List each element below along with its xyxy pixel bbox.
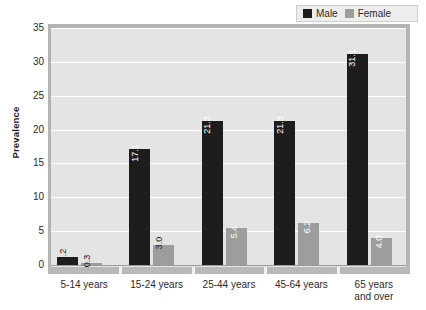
y-axis-tick-20: 20 <box>16 125 44 135</box>
bar-value-label: 0.3 <box>83 255 92 268</box>
bar-groups: 1.20.317.13.021.35.421.36.231.14.0 <box>51 28 406 267</box>
y-axis-tick-0: 0 <box>16 260 44 270</box>
x-axis-tick-label: 25-44 years <box>193 279 265 291</box>
bar-value-label: 21.3 <box>204 116 213 134</box>
legend-label-male: Male <box>316 9 338 19</box>
legend-label-female: Female <box>358 9 391 19</box>
bar-value-label: 31.1 <box>348 50 357 68</box>
bar-value-label: 6.2 <box>302 221 311 234</box>
x-axis-tick-line: 15-24 years <box>120 279 192 291</box>
y-axis-tick-35: 35 <box>16 23 44 33</box>
x-axis-group-separator <box>337 267 340 274</box>
y-axis-tick-10: 10 <box>16 192 44 202</box>
bar-value-label: 4.0 <box>375 236 384 249</box>
bar-value-label: 1.2 <box>59 249 68 262</box>
bar-female[interactable]: 6.2 <box>298 223 319 265</box>
bar-group: 31.14.0 <box>341 28 413 267</box>
x-axis-tick-line: and over <box>338 291 410 303</box>
bar-group: 21.35.4 <box>196 28 268 267</box>
y-axis-tick-labels: 05101520253035 <box>16 24 44 267</box>
bar-female[interactable]: 5.4 <box>226 228 247 265</box>
x-axis-tick-labels: 5-14 years15-24 years25-44 years45-64 ye… <box>48 279 410 309</box>
legend-entry-female: Female <box>345 9 391 19</box>
plot-area: 1.20.317.13.021.35.421.36.231.14.0 <box>48 24 410 267</box>
legend-entry-male: Male <box>303 9 338 19</box>
x-axis-strip <box>48 267 410 274</box>
bar-male[interactable]: 31.1 <box>347 54 368 265</box>
bar-value-label: 3.0 <box>155 236 164 249</box>
bar-value-label: 17.1 <box>131 144 140 162</box>
bar-group: 21.36.2 <box>268 28 340 267</box>
bar-value-label: 21.3 <box>276 116 285 134</box>
y-axis-tick-25: 25 <box>16 91 44 101</box>
x-axis-tick-label: 65 yearsand over <box>338 279 410 303</box>
x-axis-tick-label: 5-14 years <box>48 279 120 291</box>
bar-group: 1.20.3 <box>51 28 123 267</box>
bar-female[interactable]: 0.3 <box>81 263 102 265</box>
x-axis-tick-label: 45-64 years <box>265 279 337 291</box>
x-axis-tick-line: 45-64 years <box>265 279 337 291</box>
x-axis-tick-line: 25-44 years <box>193 279 265 291</box>
bar-male[interactable]: 1.2 <box>57 257 78 265</box>
bar-female[interactable]: 4.0 <box>371 238 392 265</box>
x-axis-tick-label: 15-24 years <box>120 279 192 291</box>
x-axis-tick-line: 65 years <box>338 279 410 291</box>
bar-male[interactable]: 21.3 <box>202 121 223 265</box>
chart-legend: Male Female <box>296 5 418 22</box>
bar-male[interactable]: 21.3 <box>274 121 295 265</box>
bar-value-label: 5.4 <box>230 226 239 239</box>
x-axis-group-separator <box>264 267 267 274</box>
legend-swatch-male-icon <box>303 9 312 18</box>
y-axis-tick-15: 15 <box>16 158 44 168</box>
y-axis-tick-30: 30 <box>16 57 44 67</box>
x-axis-group-separator <box>192 267 195 274</box>
bar-female[interactable]: 3.0 <box>153 245 174 265</box>
bar-male[interactable]: 17.1 <box>129 149 150 265</box>
bar-group: 17.13.0 <box>123 28 195 267</box>
x-axis-group-separator <box>119 267 122 274</box>
x-axis-tick-line: 5-14 years <box>48 279 120 291</box>
y-axis-tick-5: 5 <box>16 226 44 236</box>
legend-swatch-female-icon <box>345 9 354 18</box>
